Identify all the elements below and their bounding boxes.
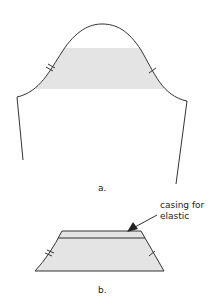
band-shape — [35, 231, 164, 271]
sleeve-left-seam — [17, 97, 23, 160]
diagram-canvas — [0, 0, 216, 308]
annotation-line-2: elastic — [160, 211, 204, 222]
figure-a-label: a. — [98, 183, 106, 193]
band-pattern — [35, 215, 164, 271]
figure-b-label: b. — [98, 285, 107, 295]
annotation-line-1: casing for — [160, 200, 204, 211]
sleeve-pattern — [17, 24, 187, 184]
shaded-band — [36, 48, 166, 89]
sleeve-right-seam — [176, 101, 187, 184]
annotation-arrow-line — [135, 215, 157, 227]
casing-annotation: casing for elastic — [160, 200, 204, 222]
